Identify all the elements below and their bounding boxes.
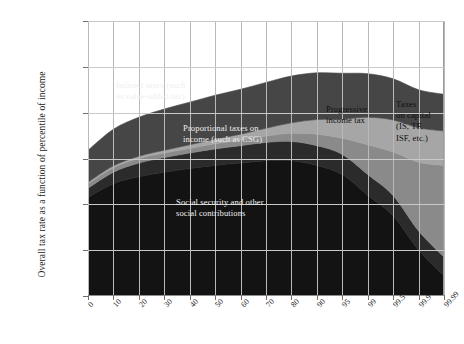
x-tick-label: 0 [86, 300, 95, 309]
gridline-horizontal [88, 21, 444, 22]
y-axis-title: Overall tax rate as a function of percen… [36, 55, 49, 295]
x-tick-label: 30 [162, 297, 174, 309]
figure-root: Overall tax rate as a function of percen… [0, 0, 464, 344]
plot-area: 0%10%20%30%40%50%60% 0102030405060708090… [88, 21, 444, 296]
x-tick-label: 50 [213, 297, 225, 309]
gridline-horizontal [88, 67, 444, 68]
y-tick-mark [83, 67, 88, 68]
gridline-vertical [444, 21, 445, 296]
gridline-horizontal [88, 250, 444, 251]
annotation-progressive-income-tax: Progressive income tax [326, 104, 367, 126]
annotation-taxes-on-capital: Taxes on capital (IS, TF, ISF, etc.) [396, 99, 431, 144]
y-tick-mark [83, 21, 88, 22]
annotation-indirect-taxes: Indirect taxes (such as value-added tax) [116, 80, 185, 102]
gridline-horizontal [88, 204, 444, 205]
gridline-horizontal [88, 113, 444, 114]
annotation-proportional-taxes: Proportional taxes on income (such as CS… [183, 123, 262, 145]
annotation-social-security: Social security and other social contrib… [176, 197, 264, 219]
x-tick-label: 95 [340, 297, 352, 309]
y-tick-mark [83, 250, 88, 251]
x-tick-label: 80 [289, 297, 301, 309]
y-tick-mark [83, 159, 88, 160]
y-tick-mark [83, 204, 88, 205]
gridline-horizontal [88, 159, 444, 160]
y-tick-mark [83, 113, 88, 114]
x-tick-label: 10 [111, 297, 123, 309]
